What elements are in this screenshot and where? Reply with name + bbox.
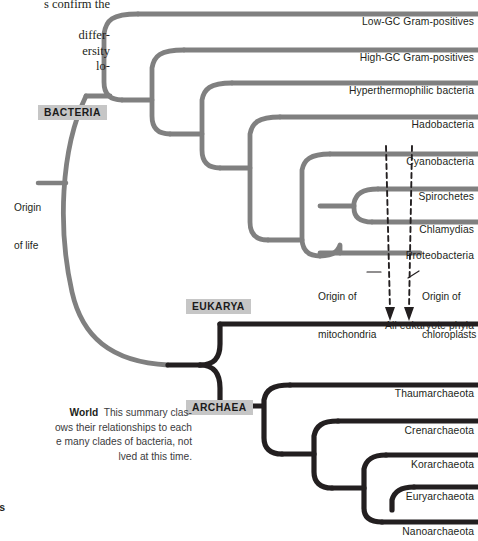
node-bacteria-c bbox=[202, 83, 232, 168]
arrowhead-mitochondria bbox=[385, 307, 395, 321]
caption-tail-text: ns bbox=[0, 500, 5, 515]
body-copy-top: s confirm the differ- ersity lo- bbox=[0, 0, 110, 75]
taxon-label-hadobacteria: Hadobacteria bbox=[412, 119, 474, 130]
figure-caption-lead: World bbox=[70, 407, 99, 418]
taxon-label-spirochetes: Spirochetes bbox=[419, 191, 474, 202]
annotation-origin-of-mitochondria: Origin of mitochondria bbox=[318, 266, 376, 367]
dashed-line-chloroplasts bbox=[409, 146, 412, 310]
taxon-label-nanoarchaeota: Nanoarchaeota bbox=[402, 526, 474, 537]
trunk-backbone bbox=[63, 96, 168, 365]
taxon-label-euryarchaeota: Euryarchaeota bbox=[406, 491, 474, 502]
taxon-label-thaumarchaeota: Thaumarchaeota bbox=[395, 388, 474, 399]
node-bacteria-b bbox=[152, 50, 184, 134]
domain-plate-bacteria[interactable]: BACTERIA bbox=[38, 105, 107, 120]
annotation-chloroplasts-line1: Origin of bbox=[422, 291, 476, 304]
figure-caption: World This summary clas- ows their relat… bbox=[0, 406, 192, 464]
domain-plate-archaea[interactable]: ARCHAEA bbox=[186, 400, 253, 415]
origin-of-life-line1: Origin bbox=[14, 202, 41, 215]
arrowhead-chloroplasts bbox=[404, 307, 414, 321]
node-archaea-b bbox=[314, 421, 338, 488]
taxon-label-low-gc-gram-positives: Low-GC Gram-positives bbox=[362, 16, 474, 27]
taxon-label-korarchaeota: Korarchaeota bbox=[411, 459, 474, 470]
taxon-label-hyperthermophilic-bacteria: Hyperthermophilic bacteria bbox=[349, 85, 474, 96]
dashed-line-mitochondria bbox=[386, 146, 390, 310]
annotation-mitochondria-line2: mitochondria bbox=[318, 329, 376, 342]
node-archaea-a bbox=[264, 385, 290, 454]
node-archaea-c bbox=[364, 455, 386, 522]
annotation-mitochondria-line1: Origin of bbox=[318, 291, 376, 304]
annotation-chloroplasts-line2: chloroplasts bbox=[422, 329, 476, 342]
domain-plate-eukarya[interactable]: EUKARYA bbox=[186, 299, 251, 314]
node-eukarya bbox=[200, 324, 220, 365]
taxon-label-cyanobacteria: Cyanobacteria bbox=[406, 156, 474, 167]
origin-of-life-line2: of life bbox=[14, 240, 41, 253]
taxon-label-proteobacteria: Proteobacteria bbox=[406, 250, 474, 261]
origin-of-life-label: Origin of life bbox=[14, 177, 41, 278]
taxon-label-crenarchaeota: Crenarchaeota bbox=[405, 425, 474, 436]
taxon-label-high-gc-gram-positives: High-GC Gram-positives bbox=[360, 52, 474, 63]
figure-canvas: s confirm the differ- ersity lo- Origin … bbox=[0, 0, 478, 541]
taxon-label-chlamydias: Chlamydias bbox=[419, 224, 474, 235]
node-bacteria-d bbox=[250, 117, 280, 240]
annotation-origin-of-chloroplasts: Origin of chloroplasts bbox=[422, 266, 476, 367]
node-bacteria-f bbox=[354, 189, 378, 222]
